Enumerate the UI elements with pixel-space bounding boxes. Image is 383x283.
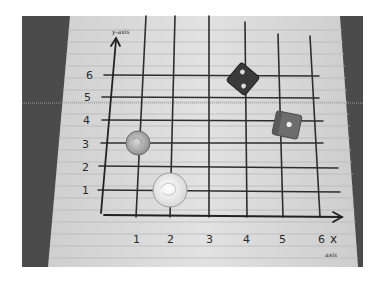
x-tick-3: 3 [206, 233, 213, 246]
x-axis-subtitle: axis [325, 251, 337, 258]
y-tick-4: 4 [83, 114, 90, 127]
x-tick-6: 6 [318, 233, 325, 246]
light-die-icon [272, 111, 302, 140]
grid-photo: y-axis x axis 1 2 3 4 5 6 1 2 3 4 5 6 [0, 0, 383, 283]
dime-icon [126, 131, 150, 155]
y-tick-6: 6 [86, 69, 93, 82]
y-tick-3: 3 [82, 138, 89, 151]
y-axis-title: y-axis [112, 28, 130, 36]
coin-icon [153, 173, 187, 207]
x-axis-title: x [330, 232, 337, 246]
y-tick-5: 5 [84, 91, 91, 104]
x-tick-5: 5 [279, 233, 286, 246]
x-tick-1: 1 [133, 233, 140, 246]
y-tick-1: 1 [82, 184, 89, 197]
y-tick-2: 2 [82, 161, 89, 174]
x-tick-2: 2 [167, 233, 174, 246]
x-tick-4: 4 [243, 233, 250, 246]
